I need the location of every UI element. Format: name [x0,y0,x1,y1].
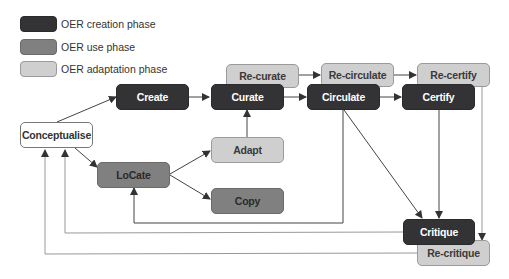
node-conceptualise: Conceptualise [20,122,93,148]
node-label: Adapt [233,144,262,156]
node-label: Re-critique [427,247,480,259]
node-label: LoCate [116,169,150,181]
node-create: Create [116,84,189,110]
node-label: Re-circulate [329,69,387,81]
node-label: Certify [423,91,455,103]
node-copy: Copy [211,188,284,214]
node-label: Create [137,91,168,103]
node-adapt: Adapt [211,137,284,163]
node-curate: Curate [211,84,284,110]
node-label: Re-curate [239,70,286,82]
node-locate: LoCate [97,162,170,188]
node-label: Critique [420,226,458,238]
node-certify: Certify [402,84,475,110]
node-label: Copy [235,195,260,207]
node-label: Conceptualise [22,129,91,141]
node-label: Re-certify [430,69,476,81]
node-label: Curate [231,91,263,103]
node-circulate: Circulate [307,84,380,110]
node-critique: Critique [403,219,475,245]
node-label: Circulate [322,91,365,103]
